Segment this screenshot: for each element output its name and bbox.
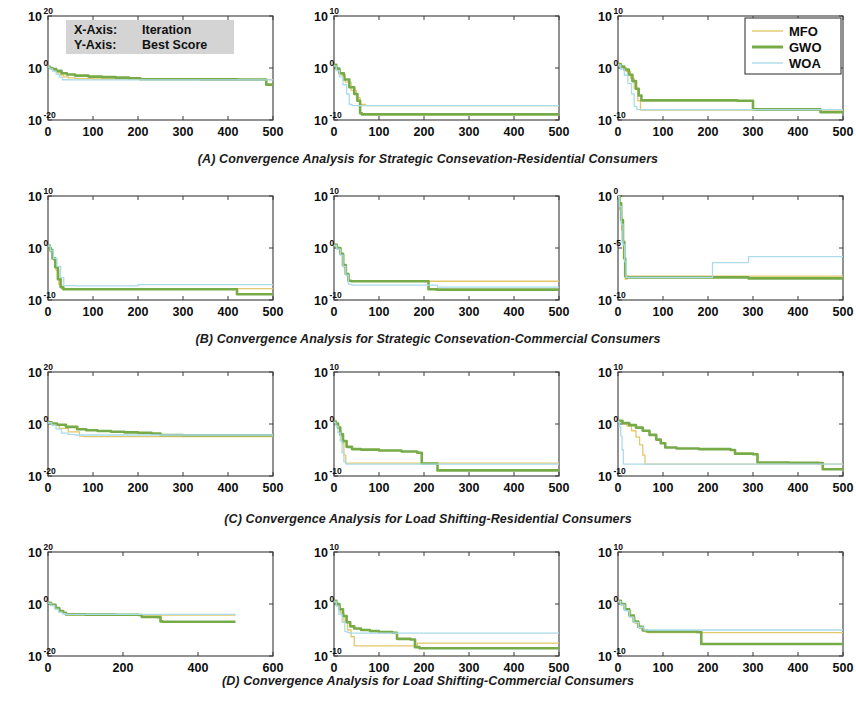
x-tick-label: 500 [833, 125, 854, 139]
y-tick-label: 100 [314, 58, 334, 76]
plot-frame [334, 552, 559, 656]
y-tick-label: 10-10 [314, 466, 342, 484]
x-tick-label: 200 [414, 305, 435, 319]
svg-text:10: 10 [598, 10, 612, 24]
x-tick-label: 500 [833, 661, 854, 675]
svg-text:0: 0 [614, 594, 619, 604]
y-tick-label: 100 [314, 414, 334, 432]
svg-text:10: 10 [28, 418, 42, 432]
svg-text:10: 10 [28, 190, 42, 204]
x-tick-label: 500 [549, 305, 570, 319]
x-tick-label: 500 [549, 661, 570, 675]
x-tick-label: 0 [45, 481, 52, 495]
x-tick-label: 0 [615, 661, 622, 675]
chart-panel-b3: 010020030040050010010-510-10 [570, 186, 855, 322]
x-tick-label: 300 [173, 125, 194, 139]
plot-frame [618, 196, 843, 300]
plot-frame [618, 372, 843, 476]
chart-panel-d3: 0100200300400500101010010-10 [570, 542, 855, 678]
x-tick-label: 200 [698, 661, 719, 675]
svg-text:10: 10 [314, 10, 328, 24]
x-tick-label: 100 [653, 661, 674, 675]
x-tick-label: 200 [128, 125, 149, 139]
svg-text:-10: -10 [330, 646, 343, 656]
chart-panel-a3: 0100200300400500101010010-10MFOGWOWOA [570, 6, 855, 142]
x-tick-label: 200 [128, 481, 149, 495]
svg-text:-10: -10 [614, 466, 627, 476]
svg-text:10: 10 [314, 242, 328, 256]
x-tick-label: 100 [369, 481, 390, 495]
svg-text:-10: -10 [44, 290, 57, 300]
plot-frame [334, 196, 559, 300]
svg-text:10: 10 [598, 114, 612, 128]
x-tick-label: 400 [218, 305, 239, 319]
svg-text:0: 0 [330, 594, 335, 604]
annotation-x-axis-key: X-Axis: [74, 23, 117, 37]
x-tick-label: 400 [188, 661, 209, 675]
x-tick-label: 300 [173, 481, 194, 495]
x-tick-label: 400 [788, 125, 809, 139]
x-tick-label: 400 [504, 125, 525, 139]
svg-text:10: 10 [598, 294, 612, 308]
x-tick-label: 0 [331, 305, 338, 319]
plot-frame [48, 372, 273, 476]
x-tick-label: 500 [833, 481, 854, 495]
svg-text:-5: -5 [614, 238, 622, 248]
plot-frame [334, 16, 559, 120]
figure-caption-b: (B) Convergence Analysis for Strategic C… [0, 332, 856, 346]
y-tick-label: 100 [28, 414, 48, 432]
x-tick-label: 0 [615, 481, 622, 495]
svg-text:10: 10 [330, 542, 340, 552]
svg-text:10: 10 [28, 650, 42, 664]
svg-text:10: 10 [330, 6, 340, 16]
svg-text:0: 0 [44, 238, 49, 248]
x-tick-label: 300 [743, 305, 764, 319]
x-tick-label: 500 [263, 125, 284, 139]
x-tick-label: 300 [743, 481, 764, 495]
y-tick-label: 100 [28, 58, 48, 76]
chart-row-a: 0100200300400500102010010-20X-Axis:Itera… [0, 6, 856, 142]
figure-caption-a: (A) Convergence Analysis for Strategic C… [0, 152, 856, 166]
x-tick-label: 200 [698, 125, 719, 139]
svg-text:20: 20 [44, 6, 54, 16]
x-tick-label: 100 [83, 305, 104, 319]
y-tick-label: 10-10 [28, 290, 56, 308]
x-tick-label: 200 [414, 125, 435, 139]
svg-text:-20: -20 [44, 110, 57, 120]
svg-text:10: 10 [28, 10, 42, 24]
x-tick-label: 400 [218, 125, 239, 139]
chart-panel-c2: 0100200300400500101010010-10 [286, 362, 571, 498]
x-tick-label: 200 [414, 661, 435, 675]
chart-row-c: 0100200300400500102010010-20010020030040… [0, 362, 856, 498]
svg-text:10: 10 [28, 598, 42, 612]
chart-row-d: 0200400600102010010-20010020030040050010… [0, 542, 856, 678]
svg-text:20: 20 [44, 362, 54, 372]
svg-text:-10: -10 [614, 110, 627, 120]
x-tick-label: 300 [173, 305, 194, 319]
svg-text:0: 0 [614, 186, 619, 196]
svg-text:10: 10 [28, 242, 42, 256]
y-tick-label: 100 [598, 594, 618, 612]
x-tick-label: 200 [113, 661, 134, 675]
x-tick-label: 400 [788, 481, 809, 495]
x-tick-label: 100 [83, 481, 104, 495]
x-tick-label: 400 [788, 305, 809, 319]
svg-text:10: 10 [28, 114, 42, 128]
y-tick-label: 100 [28, 238, 48, 256]
svg-text:10: 10 [314, 418, 328, 432]
svg-text:10: 10 [614, 542, 624, 552]
x-tick-label: 300 [459, 661, 480, 675]
svg-text:10: 10 [598, 418, 612, 432]
y-tick-label: 100 [598, 414, 618, 432]
svg-text:10: 10 [598, 366, 612, 380]
y-tick-label: 100 [314, 238, 334, 256]
svg-text:-10: -10 [330, 290, 343, 300]
svg-text:10: 10 [314, 546, 328, 560]
svg-text:10: 10 [598, 598, 612, 612]
y-tick-label: 10-10 [598, 466, 626, 484]
x-tick-label: 300 [743, 125, 764, 139]
y-tick-label: 10-10 [598, 110, 626, 128]
svg-text:0: 0 [330, 414, 335, 424]
svg-text:10: 10 [314, 190, 328, 204]
chart-panel-a1: 0100200300400500102010010-20X-Axis:Itera… [0, 6, 285, 142]
